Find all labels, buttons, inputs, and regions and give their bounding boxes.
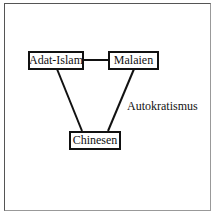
node-label: Malaien: [114, 53, 153, 68]
edge-label-autokratismus: Autokratismus: [127, 99, 198, 114]
edge-adat-islam-chinesen: [57, 69, 82, 131]
node-label: Chinesen: [73, 133, 118, 148]
node-malaien: Malaien: [108, 51, 159, 70]
node-chinesen: Chinesen: [69, 131, 121, 150]
node-label: Adat-Islam: [29, 53, 83, 68]
node-adat-islam: Adat-Islam: [28, 51, 84, 70]
